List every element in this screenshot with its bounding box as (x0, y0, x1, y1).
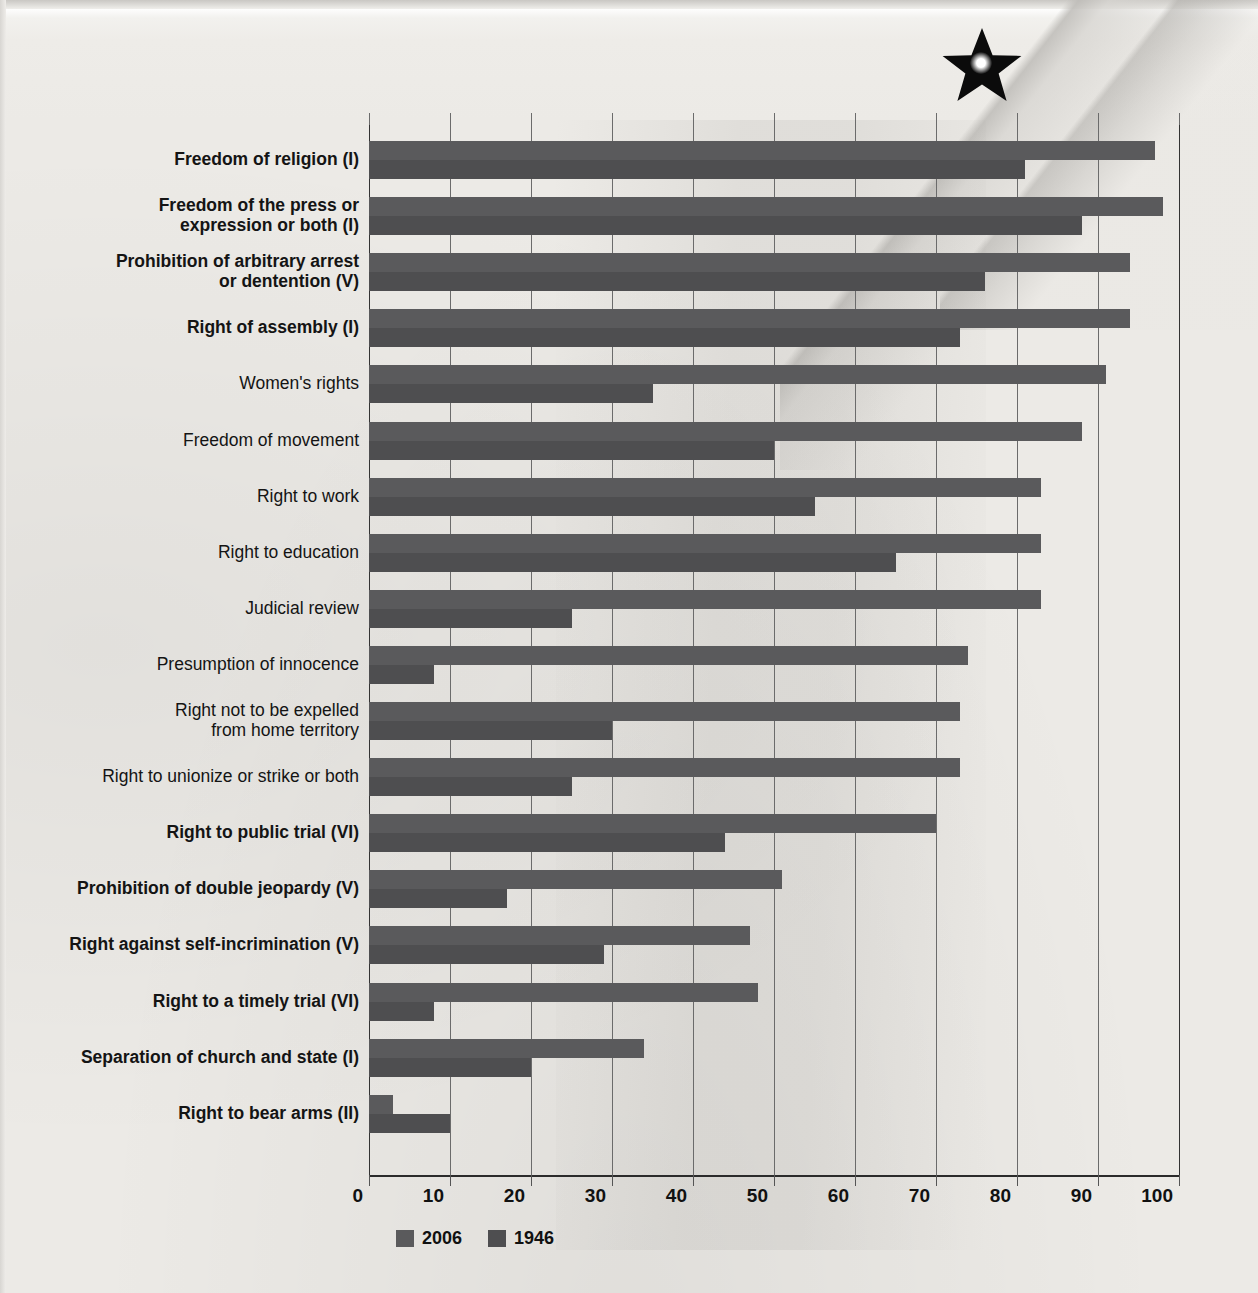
top-tick-70 (936, 113, 937, 125)
bar-2006 (369, 197, 1163, 216)
legend-item-1946: 1946 (488, 1228, 554, 1249)
bar-2006 (369, 478, 1041, 497)
bar-group (369, 758, 1179, 796)
bar-group (369, 141, 1179, 179)
category-label: Freedom of movement (0, 430, 359, 450)
x-tick-70 (936, 1175, 937, 1186)
x-tick-label-20: 20 (504, 1185, 525, 1207)
category-label: Presumption of innocence (0, 654, 359, 674)
top-tick-30 (612, 113, 613, 125)
bar-group (369, 814, 1179, 852)
x-tick-label-40: 40 (666, 1185, 687, 1207)
plot-area (369, 125, 1179, 1175)
x-tick-0 (369, 1175, 370, 1186)
bar-1946 (369, 1114, 450, 1133)
bar-group (369, 870, 1179, 908)
bar-2006 (369, 1039, 644, 1058)
x-tick-50 (774, 1175, 775, 1186)
top-tick-80 (1017, 113, 1018, 125)
x-tick-60 (855, 1175, 856, 1186)
bar-1946 (369, 272, 985, 291)
bar-1946 (369, 833, 725, 852)
bar-group (369, 422, 1179, 460)
bar-group (369, 197, 1179, 235)
x-tick-label-0: 0 (352, 1185, 363, 1207)
bar-group (369, 534, 1179, 572)
category-label: Separation of church and state (I) (0, 1047, 359, 1067)
bar-chart: 0102030405060708090100 20061946 Freedom … (0, 0, 1258, 1293)
chart-legend: 20061946 (396, 1228, 554, 1249)
top-tick-10 (450, 113, 451, 125)
bar-1946 (369, 665, 434, 684)
category-label: Freedom of the press or expression or bo… (0, 195, 359, 235)
bar-2006 (369, 365, 1106, 384)
category-label: Women's rights (0, 373, 359, 393)
bar-1946 (369, 1058, 531, 1077)
bar-1946 (369, 609, 572, 628)
bar-1946 (369, 328, 960, 347)
bar-group (369, 478, 1179, 516)
bar-2006 (369, 253, 1130, 272)
top-tick-40 (693, 113, 694, 125)
bar-1946 (369, 721, 612, 740)
x-tick-label-60: 60 (828, 1185, 849, 1207)
top-tick-100 (1179, 113, 1180, 125)
category-label: Right of assembly (I) (0, 317, 359, 337)
bar-group (369, 253, 1179, 291)
bar-2006 (369, 814, 936, 833)
bar-1946 (369, 441, 774, 460)
category-label: Right against self-incrimination (V) (0, 934, 359, 954)
x-tick-label-90: 90 (1071, 1185, 1092, 1207)
x-tick-label-50: 50 (747, 1185, 768, 1207)
bar-2006 (369, 590, 1041, 609)
bar-2006 (369, 758, 960, 777)
bar-group (369, 983, 1179, 1021)
bar-2006 (369, 309, 1130, 328)
legend-label: 1946 (514, 1228, 554, 1249)
category-label: Right not to be expelled from home terri… (0, 700, 359, 740)
x-tick-label-70: 70 (909, 1185, 930, 1207)
bar-group (369, 1039, 1179, 1077)
category-label: Right to work (0, 486, 359, 506)
bar-group (369, 702, 1179, 740)
top-tick-90 (1098, 113, 1099, 125)
bar-2006 (369, 983, 758, 1002)
x-tick-label-30: 30 (585, 1185, 606, 1207)
category-label: Right to unionize or strike or both (0, 766, 359, 786)
bar-2006 (369, 926, 750, 945)
bar-2006 (369, 870, 782, 889)
x-tick-80 (1017, 1175, 1018, 1186)
bar-2006 (369, 702, 960, 721)
x-tick-20 (531, 1175, 532, 1186)
bar-1946 (369, 497, 815, 516)
legend-item-2006: 2006 (396, 1228, 462, 1249)
bar-group (369, 309, 1179, 347)
bar-group (369, 590, 1179, 628)
bar-1946 (369, 553, 896, 572)
bar-1946 (369, 384, 653, 403)
category-label: Right to a timely trial (VI) (0, 991, 359, 1011)
x-tick-100 (1179, 1175, 1180, 1186)
bar-1946 (369, 889, 507, 908)
top-tick-20 (531, 113, 532, 125)
x-tick-label-100: 100 (1141, 1185, 1173, 1207)
bar-group (369, 1095, 1179, 1133)
category-label: Prohibition of double jeopardy (V) (0, 878, 359, 898)
category-label: Right to education (0, 542, 359, 562)
x-tick-10 (450, 1175, 451, 1186)
category-label: Right to bear arms (II) (0, 1103, 359, 1123)
legend-label: 2006 (422, 1228, 462, 1249)
bar-2006 (369, 1095, 393, 1114)
bar-1946 (369, 777, 572, 796)
bar-1946 (369, 1002, 434, 1021)
bar-2006 (369, 646, 968, 665)
bar-1946 (369, 945, 604, 964)
bar-1946 (369, 216, 1082, 235)
x-tick-90 (1098, 1175, 1099, 1186)
x-tick-label-10: 10 (423, 1185, 444, 1207)
bar-2006 (369, 422, 1082, 441)
legend-swatch (488, 1230, 506, 1247)
star-glow (970, 52, 992, 74)
bar-group (369, 926, 1179, 964)
x-tick-40 (693, 1175, 694, 1186)
